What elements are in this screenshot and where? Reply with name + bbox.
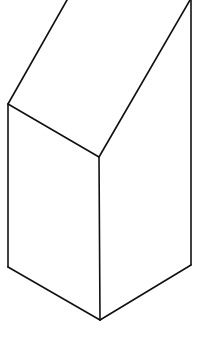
front-slope-edge [99, 0, 190, 157]
prism-drawing [0, 0, 218, 349]
bottom-right-edge [100, 265, 191, 320]
top-front-edge [8, 104, 99, 157]
left-slope-edge [8, 0, 67, 104]
bottom-left-edge [8, 267, 100, 320]
front-vertical-edge [99, 157, 100, 320]
